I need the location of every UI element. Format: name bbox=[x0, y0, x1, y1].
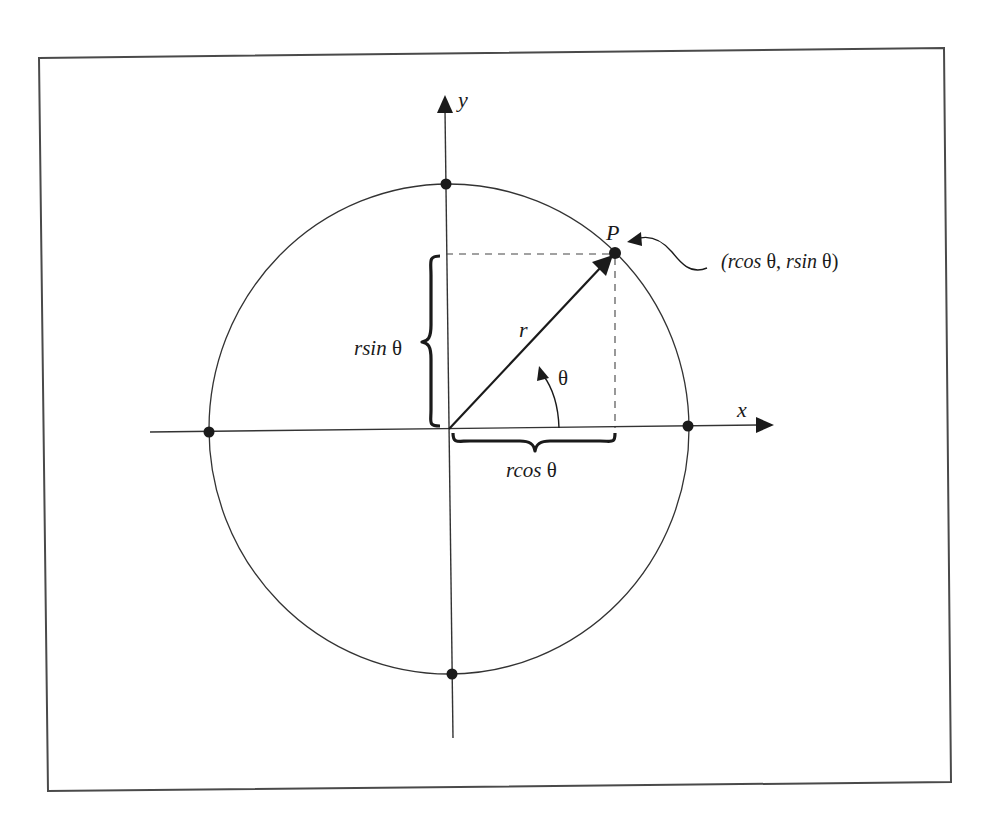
intercept-dot-bottom bbox=[447, 669, 458, 680]
y-axis-arrowhead-icon bbox=[437, 95, 453, 113]
callout-arrowhead-icon bbox=[627, 232, 642, 246]
callout-curve bbox=[636, 237, 707, 270]
point-p-label: P bbox=[605, 220, 619, 245]
radius-label: r bbox=[519, 317, 528, 342]
intercept-dot-left bbox=[204, 427, 215, 438]
angle-arc bbox=[543, 375, 559, 428]
x-axis-arrowhead-icon bbox=[756, 417, 774, 433]
figure-frame bbox=[39, 48, 951, 791]
point-coordinates-label: (rcos θ, rsin θ) bbox=[721, 250, 838, 273]
vertical-brace bbox=[422, 256, 440, 426]
angle-arrowhead-icon bbox=[537, 366, 549, 381]
intercept-dot-right bbox=[683, 421, 694, 432]
angle-label: θ bbox=[558, 366, 568, 390]
x-axis-label: x bbox=[736, 397, 747, 422]
y-axis bbox=[445, 110, 453, 738]
horizontal-brace-label: rcos θ bbox=[506, 458, 557, 482]
radius-vector bbox=[449, 266, 602, 429]
point-p-dot bbox=[609, 247, 621, 259]
x-axis bbox=[150, 425, 758, 432]
vertical-brace-label: rsin θ bbox=[354, 336, 402, 360]
polar-diagram: x y r θ P (rcos θ, rsin θ) rsin θ rcos θ bbox=[0, 0, 988, 820]
intercept-dot-top bbox=[441, 179, 452, 190]
horizontal-brace bbox=[453, 433, 615, 451]
y-axis-label: y bbox=[456, 87, 468, 112]
